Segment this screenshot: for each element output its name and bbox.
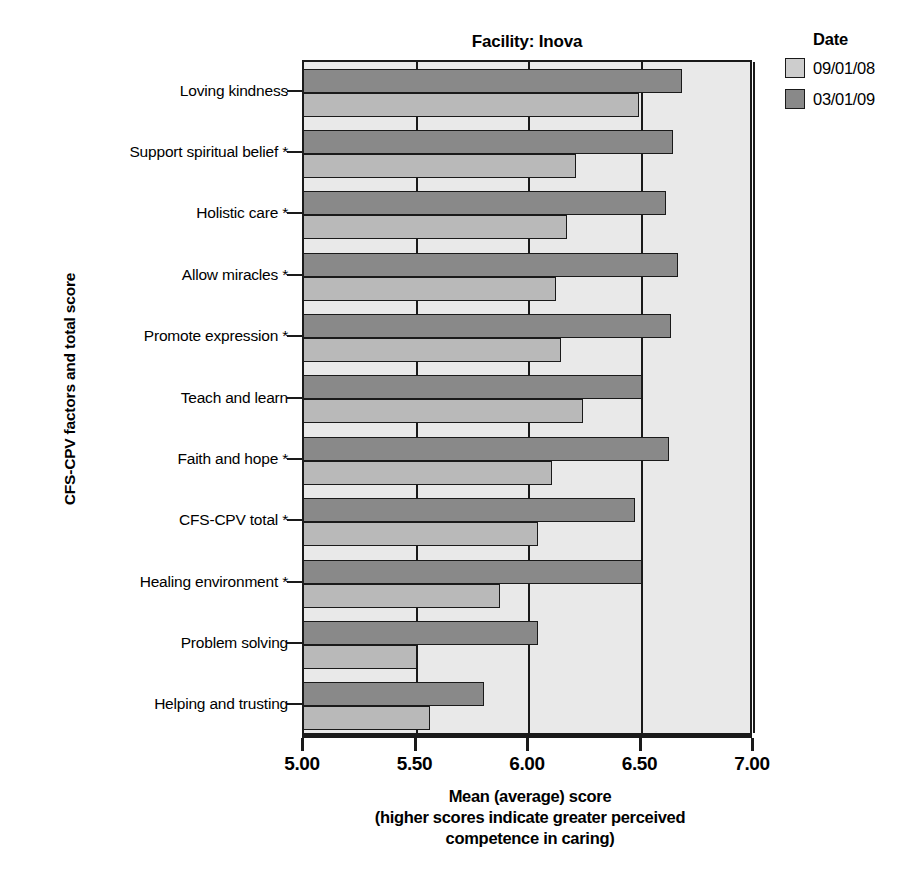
bar — [303, 498, 635, 522]
legend-item: 09/01/08 — [785, 58, 905, 78]
legend-item: 03/01/09 — [785, 89, 905, 109]
bar — [303, 277, 556, 301]
legend-title: Date — [813, 30, 905, 49]
light-gray-swatch — [785, 58, 805, 78]
plot-area — [302, 60, 752, 735]
x-axis-tick — [639, 738, 642, 751]
bar — [303, 154, 576, 178]
bar — [303, 215, 567, 239]
bar — [303, 560, 642, 584]
bar-group — [304, 246, 750, 307]
legend-items: 09/01/0803/01/09 — [785, 58, 905, 109]
bar — [303, 399, 583, 423]
bar — [303, 338, 561, 362]
y-axis-label: Loving kindness — [2, 82, 292, 100]
bar-group — [304, 307, 750, 368]
y-axis-label: Teach and learn — [2, 389, 292, 407]
bar — [303, 375, 642, 399]
bar-group — [304, 369, 750, 430]
y-axis-label: Allow miracles * — [2, 266, 292, 284]
y-axis-label: Support spiritual belief * — [2, 143, 292, 161]
x-axis-tick — [526, 738, 529, 751]
bar — [303, 130, 673, 154]
x-axis-tick — [301, 738, 304, 751]
x-axis-tick-label: 7.00 — [707, 753, 797, 775]
bar — [303, 437, 669, 461]
gridline-7.00 — [753, 62, 755, 733]
bars-layer — [304, 62, 750, 733]
bar — [303, 584, 500, 608]
bar — [303, 645, 417, 669]
bar-group — [304, 614, 750, 675]
x-axis-tick-label: 5.00 — [257, 753, 347, 775]
x-axis-tick-label: 6.00 — [482, 753, 572, 775]
y-axis-label: Holistic care * — [2, 204, 292, 222]
x-axis-tick-label: 6.50 — [595, 753, 685, 775]
bar — [303, 621, 538, 645]
legend-item-label: 09/01/08 — [813, 59, 875, 78]
bar-group — [304, 62, 750, 123]
bar — [303, 522, 538, 546]
x-axis-tick-label: 5.50 — [370, 753, 460, 775]
dark-gray-swatch — [785, 89, 805, 109]
bar-group — [304, 492, 750, 553]
y-axis-label: Healing environment * — [2, 573, 292, 591]
chart-title: Facility: Inova — [302, 32, 752, 52]
bar — [303, 69, 682, 93]
bar-group — [304, 430, 750, 491]
bar — [303, 93, 639, 117]
bar — [303, 461, 552, 485]
y-axis-label: Helping and trusting — [2, 695, 292, 713]
bar — [303, 706, 430, 730]
x-axis-title-line-3: competence in caring) — [230, 828, 830, 849]
bar — [303, 682, 484, 706]
x-axis-title: Mean (average) score (higher scores indi… — [230, 786, 830, 849]
bar-group — [304, 553, 750, 614]
y-axis-label: Problem solving — [2, 634, 292, 652]
bar-group — [304, 676, 750, 737]
bar — [303, 191, 666, 215]
bar — [303, 314, 671, 338]
y-axis-labels: Loving kindnessSupport spiritual belief … — [0, 0, 292, 876]
bar-group — [304, 185, 750, 246]
x-axis-tick — [414, 738, 417, 751]
legend-item-label: 03/01/09 — [813, 90, 875, 109]
y-axis-label: CFS-CPV total * — [2, 511, 292, 529]
x-axis-title-line-1: Mean (average) score — [230, 786, 830, 807]
bar-group — [304, 123, 750, 184]
y-axis-label: Promote expression * — [2, 327, 292, 345]
x-axis-tick — [751, 738, 754, 751]
y-axis-label: Faith and hope * — [2, 450, 292, 468]
legend: Date 09/01/0803/01/09 — [785, 30, 905, 120]
x-axis-title-line-2: (higher scores indicate greater perceive… — [230, 807, 830, 828]
bar — [303, 253, 678, 277]
